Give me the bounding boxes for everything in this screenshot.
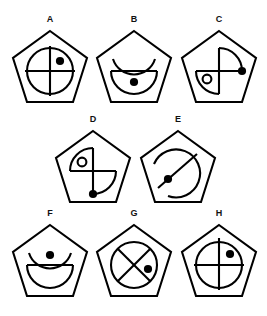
pentagon-outline: [13, 225, 87, 296]
figure-b-art: [92, 26, 176, 110]
figure-e[interactable]: E: [136, 114, 220, 210]
pentagon-outline: [97, 31, 171, 102]
pentagon-outline: [141, 131, 215, 202]
diagonal-line: [158, 154, 197, 188]
figure-f[interactable]: F: [8, 208, 92, 304]
filled-dot: [130, 78, 138, 86]
figure-b-label: B: [92, 14, 176, 25]
figure-d[interactable]: D: [51, 114, 135, 210]
figure-row-1: A B: [0, 14, 267, 110]
figure-d-label: D: [51, 114, 135, 125]
figure-e-art: [136, 126, 220, 210]
filled-dot: [226, 250, 234, 258]
figure-a-art: [8, 26, 92, 110]
figure-b[interactable]: B: [92, 14, 176, 110]
upper-left-quarter-arc: [70, 148, 93, 171]
figure-a-label: A: [8, 14, 92, 25]
figure-board: A B: [0, 0, 267, 316]
figure-h[interactable]: H: [177, 208, 261, 304]
figure-d-art: [51, 126, 135, 210]
figure-g[interactable]: G: [92, 208, 176, 304]
small-open-circle: [203, 75, 212, 84]
pentagon-outline: [97, 225, 171, 296]
open-top-arc: [113, 59, 155, 74]
filled-dot: [238, 67, 246, 75]
filled-dot: [164, 175, 172, 183]
figure-e-label: E: [136, 114, 220, 125]
small-open-circle: [78, 158, 87, 167]
figure-g-art: [92, 220, 176, 304]
figure-c-label: C: [177, 14, 261, 25]
figure-h-label: H: [177, 208, 261, 219]
figure-a[interactable]: A: [8, 14, 92, 110]
filled-dot: [46, 251, 54, 259]
filled-dot: [144, 265, 152, 273]
figure-f-art: [8, 220, 92, 304]
filled-dot: [89, 190, 97, 198]
upper-right-quarter-arc: [219, 48, 242, 71]
figure-g-label: G: [92, 208, 176, 219]
filled-dot: [56, 57, 64, 65]
lower-right-quarter-arc: [93, 171, 116, 194]
figure-row-3: F G: [0, 208, 267, 304]
figure-row-2: D E: [0, 114, 267, 210]
figure-f-label: F: [8, 208, 92, 219]
figure-c-art: [177, 26, 261, 110]
figure-h-art: [177, 220, 261, 304]
figure-c[interactable]: C: [177, 14, 261, 110]
